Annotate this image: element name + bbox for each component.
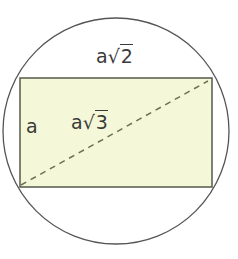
top-label-radicand: 2 (120, 44, 133, 67)
diagram-canvas: a√2 a a√3 (0, 0, 238, 259)
diagonal-label: a√3 (71, 113, 108, 132)
radical-sign: √ (108, 45, 120, 67)
top-side-label: a√2 (96, 47, 133, 66)
diagonal-label-base: a (71, 111, 83, 133)
inscribed-rectangle (20, 78, 212, 187)
top-label-base: a (96, 45, 108, 67)
diagonal-label-radicand: 3 (95, 110, 108, 133)
left-side-label: a (26, 117, 38, 136)
radical-sign: √ (83, 111, 95, 133)
